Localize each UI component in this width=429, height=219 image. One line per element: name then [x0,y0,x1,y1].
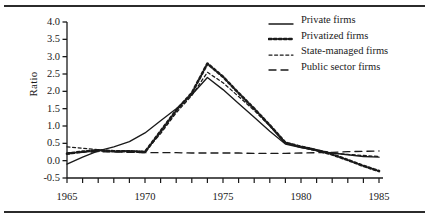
legend-swatch-icon [268,15,294,25]
legend-swatch-icon [268,46,294,56]
legend-label: Public sector firms [301,61,380,72]
series-line [67,72,379,156]
x-tick-label: 1980 [278,191,324,202]
legend-swatch-icon [268,30,294,40]
legend-label: Private firms [301,14,356,25]
x-tick-label: 1975 [200,191,246,202]
legend-swatch-icon [268,61,294,71]
legend-label: Privatized firms [301,30,368,41]
x-tick-label: 1985 [356,191,402,202]
legend-item[interactable]: Privatized firms [268,28,388,44]
legend-item[interactable]: State-managed firms [268,43,388,59]
legend-item[interactable]: Public sector firms [268,59,388,75]
figure: Ratio 4.03.53.02.52.01.51.00.50.0-0.5 Pr… [0,0,429,219]
series-line [67,64,379,171]
x-tick-label: 1965 [44,191,90,202]
legend-item[interactable]: Private firms [268,12,388,28]
legend-label: State-managed firms [301,45,388,56]
legend: Private firmsPrivatized firmsState-manag… [268,12,388,74]
x-tick-label: 1970 [122,191,168,202]
